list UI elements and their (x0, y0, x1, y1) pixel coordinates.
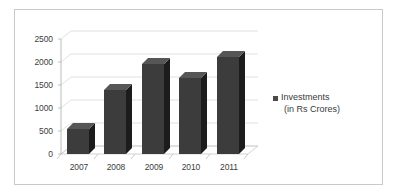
x-tick-label-2011: 2011 (214, 163, 244, 172)
x-tick-label-2009: 2009 (139, 163, 169, 172)
legend-label-line1: Investments (281, 92, 330, 104)
bar-2010 (179, 72, 207, 154)
bar-series (15, 10, 265, 186)
bar-2009 (142, 58, 170, 154)
x-tick-label-2008: 2008 (101, 163, 131, 172)
chart-legend: Investments (in Rs Crores) (273, 92, 393, 115)
legend-swatch-icon (273, 96, 278, 101)
x-tick-label-2007: 2007 (64, 163, 94, 172)
legend-label-line2: (in Rs Crores) (273, 104, 393, 116)
legend-item: Investments (273, 92, 393, 104)
chart-container: 0 500 1000 1500 2000 2500 (14, 9, 383, 185)
plot-area: 0 500 1000 1500 2000 2500 (15, 10, 265, 186)
bar-2011 (217, 51, 245, 154)
bar-2007 (67, 123, 95, 154)
bar-2008 (104, 84, 132, 154)
x-tick-label-2010: 2010 (176, 163, 206, 172)
